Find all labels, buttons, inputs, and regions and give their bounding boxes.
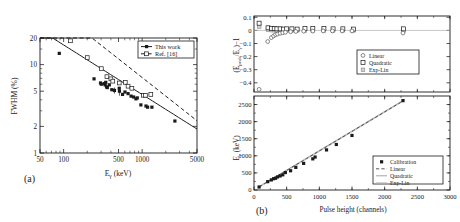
data-point-calibration (302, 162, 305, 165)
data-point-linear (294, 30, 298, 34)
data-point-ref16 (85, 56, 89, 60)
y-tick-label: 1 (33, 150, 37, 158)
y-tick-label: 2 (33, 123, 37, 131)
data-point-ref16 (143, 93, 147, 97)
panel-a-ylabel: FWHM (%) (10, 77, 19, 114)
x-tick-label: 3000 (443, 193, 457, 200)
data-point-calibration (294, 166, 297, 169)
data-point-ref16 (126, 84, 130, 88)
data-point-linear (283, 30, 287, 34)
data-point-ref16 (111, 79, 115, 83)
data-point-calibration (335, 143, 338, 146)
data-point-linear (289, 30, 293, 34)
data-point-ref16 (99, 67, 103, 71)
legend-label: Exp-Lin (369, 67, 388, 73)
x-tick-label: 500 (113, 156, 124, 164)
data-point-calibration (284, 171, 287, 174)
legend-marker-open-circle (361, 54, 365, 58)
legend-marker-gray-square (361, 68, 365, 72)
data-point-calibration (289, 169, 292, 172)
x-tick-label: 1000 (313, 193, 327, 200)
panel-b-svg: 0.10−0.1−0.2−0.3−0.4 LinearQuadraticExp-… (228, 0, 460, 222)
data-point-this-work (150, 106, 153, 109)
legend-marker-open-square (361, 61, 365, 65)
data-point-quadratic (402, 27, 406, 31)
legend-label: This work (155, 43, 181, 50)
legend-label: Linear (369, 53, 384, 59)
panel-a-svg: 50100500100050001251020 This workRef. [1… (0, 0, 228, 222)
x-tick-label: 50 (36, 156, 44, 164)
x-tick-label: 1000 (135, 156, 150, 164)
legend-label: Quadratic (390, 173, 413, 179)
data-point-this-work (146, 106, 149, 109)
x-tick-label: 2000 (378, 193, 392, 200)
x-tick-label: 2500 (411, 193, 425, 200)
data-point-ref16 (130, 86, 134, 90)
data-point-ref16 (117, 81, 121, 85)
y-tick-label: 2500 (238, 101, 252, 108)
legend-marker-filled-square (145, 45, 148, 48)
data-point-linear (257, 87, 261, 91)
data-point-linear (302, 29, 306, 33)
x-tick-label: 5000 (190, 156, 205, 164)
data-point-this-work (139, 103, 142, 106)
y-tick-label: 0.1 (243, 14, 251, 21)
data-point-ref16 (105, 75, 109, 79)
x-tick-label: 1500 (345, 193, 359, 200)
data-point-quadratic (257, 21, 261, 25)
data-point-calibration (257, 185, 260, 188)
legend-label: Quadratic (369, 60, 392, 66)
legend-label: Linear (390, 166, 405, 172)
data-point-ref16 (69, 39, 73, 43)
panel-b: 0.10−0.1−0.2−0.3−0.4 LinearQuadraticExp-… (228, 0, 460, 222)
x-tick-label: 100 (58, 156, 69, 164)
data-point-this-work (173, 119, 176, 122)
data-point-linear (311, 29, 315, 33)
data-point-ref16 (149, 93, 153, 97)
panel-b-caption: (b) (256, 205, 268, 217)
data-point-linear (321, 29, 325, 33)
panel-b-bottom-ylabel: Eγ (keV) (233, 135, 242, 161)
y-tick-label: 2000 (238, 118, 252, 125)
legend-label: Calibration (390, 159, 416, 165)
y-tick-label: −0.3 (240, 66, 253, 73)
data-point-linear (401, 31, 405, 35)
legend-marker-filled-square (380, 160, 383, 163)
data-point-calibration (350, 134, 353, 137)
panel-a-caption: (a) (24, 173, 35, 185)
y-tick-label: −0.1 (240, 40, 252, 47)
data-point-this-work (104, 81, 107, 84)
data-point-calibration (313, 155, 316, 158)
x-tick-label: 500 (282, 193, 293, 200)
data-point-linear (266, 40, 270, 44)
data-point-this-work (136, 96, 139, 99)
legend-label: Ref. [16] (155, 50, 177, 57)
data-point-linear (350, 29, 354, 33)
data-point-calibration (401, 99, 404, 102)
panel-b-xlabel: Pulse height (channels) (319, 206, 387, 214)
data-point-this-work (100, 83, 103, 86)
data-point-calibration (325, 148, 328, 151)
y-tick-label: 10 (30, 61, 38, 69)
legend-label: Exp-Lin (390, 180, 409, 186)
figure-container: 50100500100050001251020 This workRef. [1… (0, 0, 460, 222)
y-tick-label: 500 (242, 169, 253, 176)
data-point-this-work (126, 92, 129, 95)
data-point-linear (331, 29, 335, 33)
data-point-this-work (123, 90, 126, 93)
data-point-this-work (58, 52, 61, 55)
panel-a: 50100500100050001251020 This workRef. [1… (0, 0, 228, 222)
panel-a-xlabel: Eγ (keV) (105, 169, 132, 179)
y-tick-label: 20 (30, 35, 38, 43)
y-tick-label: 5 (33, 88, 37, 96)
x-tick-label: 0 (252, 193, 256, 200)
data-point-this-work (92, 77, 95, 80)
data-point-ref16 (123, 80, 127, 84)
data-point-calibration (266, 180, 269, 183)
y-tick-label: 0 (248, 27, 252, 34)
panel-b-top-ylabel: (Epeak/Eγ)−1 (233, 37, 242, 72)
data-point-this-work (108, 83, 111, 86)
y-tick-label: −0.4 (240, 79, 253, 86)
data-point-linear (340, 29, 344, 33)
legend-marker-open-square (145, 52, 149, 56)
